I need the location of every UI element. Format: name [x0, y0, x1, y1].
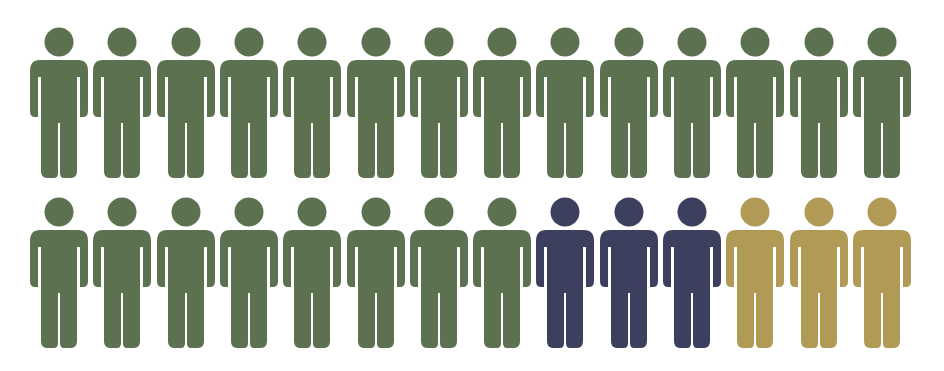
person-icon [347, 27, 405, 179]
person-icon [347, 197, 405, 349]
person-icon [536, 197, 594, 349]
person-icon [410, 197, 468, 349]
pictogram-row-1 [0, 27, 944, 187]
person-pictogram-chart [0, 0, 944, 371]
person-icon [726, 197, 784, 349]
person-icon [283, 27, 341, 179]
person-icon [663, 197, 721, 349]
person-icon [600, 197, 658, 349]
person-icon [790, 197, 848, 349]
person-icon [600, 27, 658, 179]
person-icon [157, 197, 215, 349]
person-icon [536, 27, 594, 179]
person-icon [30, 197, 88, 349]
person-icon [93, 197, 151, 349]
person-icon [30, 27, 88, 179]
pictogram-row-2 [0, 197, 944, 357]
person-icon [790, 27, 848, 179]
person-icon [853, 27, 911, 179]
person-icon [220, 27, 278, 179]
person-icon [853, 197, 911, 349]
person-icon [157, 27, 215, 179]
person-icon [473, 27, 531, 179]
person-icon [220, 197, 278, 349]
person-icon [93, 27, 151, 179]
person-icon [410, 27, 468, 179]
person-icon [726, 27, 784, 179]
person-icon [283, 197, 341, 349]
person-icon [473, 197, 531, 349]
person-icon [663, 27, 721, 179]
